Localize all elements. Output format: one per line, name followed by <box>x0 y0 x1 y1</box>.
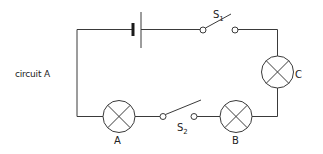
switch-s2-left-terminal <box>160 114 166 120</box>
lamp-a: A <box>103 101 135 147</box>
lamp-b-label: B <box>232 135 239 146</box>
circuit-diagram: S1 C B S2 A circuit A <box>0 0 323 154</box>
switch-s2: S2 <box>160 100 201 136</box>
lamp-c: C <box>262 56 303 88</box>
battery-cell-icon <box>133 12 141 48</box>
circuit-caption: circuit A <box>15 69 51 79</box>
lamp-a-label: A <box>114 135 121 146</box>
switch-s1-left-terminal <box>200 27 206 33</box>
lamp-c-label: C <box>295 69 302 80</box>
switch-s1: S1 <box>200 9 238 33</box>
lamp-b: B <box>220 101 252 147</box>
wires <box>77 30 278 117</box>
switch-s2-right-terminal <box>191 114 197 120</box>
switch-s1-right-terminal <box>232 27 238 33</box>
switch-s2-label: S2 <box>177 122 188 136</box>
switch-s1-label: S1 <box>213 9 224 23</box>
switch-s2-lever <box>166 100 202 115</box>
